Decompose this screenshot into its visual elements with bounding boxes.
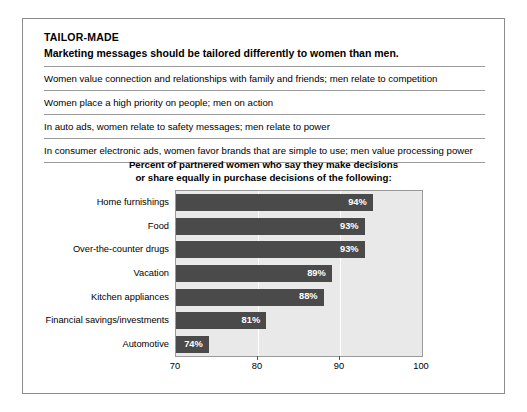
bar-row: Over-the-counter drugs93% xyxy=(176,241,422,258)
tick-label: 90 xyxy=(334,361,344,371)
tick-label: 80 xyxy=(252,361,262,371)
tick-label: 100 xyxy=(413,361,429,371)
tick-mark xyxy=(339,356,340,360)
category-label: Financial savings/investments xyxy=(46,312,170,329)
bar: 74% xyxy=(176,336,209,353)
bar-row: Automotive74% xyxy=(176,336,422,353)
bar-value-label: 89% xyxy=(307,269,326,278)
chart-body: Home furnishings94%Food93%Over-the-count… xyxy=(23,190,504,385)
category-label: Kitchen appliances xyxy=(91,289,169,306)
chart: Percent of partnered women who say they … xyxy=(23,159,504,385)
bar: 94% xyxy=(176,194,373,211)
category-label: Automotive xyxy=(122,336,169,353)
bar-value-label: 94% xyxy=(348,198,367,207)
bar: 88% xyxy=(176,289,324,306)
bar-row: Home furnishings94% xyxy=(176,194,422,211)
chart-title-line-1: Percent of partnered women who say they … xyxy=(93,159,434,172)
bar: 89% xyxy=(176,265,332,282)
exhibit-card: TAILOR-MADE Marketing messages should be… xyxy=(22,18,505,394)
category-label: Home furnishings xyxy=(97,194,169,211)
tick-label: 70 xyxy=(170,361,180,371)
tick-mark xyxy=(257,356,258,360)
bar-series: Home furnishings94%Food93%Over-the-count… xyxy=(176,191,422,356)
bar-value-label: 74% xyxy=(184,340,203,349)
chart-title: Percent of partnered women who say they … xyxy=(23,159,504,184)
bar-row: Financial savings/investments81% xyxy=(176,312,422,329)
bar: 93% xyxy=(176,241,365,258)
list-item: Women place a high priority on people; m… xyxy=(44,91,485,115)
bar-row: Kitchen appliances88% xyxy=(176,289,422,306)
x-axis-labels: 708090100 xyxy=(175,361,421,375)
exhibit-kicker: TAILOR-MADE xyxy=(44,30,485,45)
chart-title-line-2: or share equally in purchase decisions o… xyxy=(93,172,434,185)
category-label: Vacation xyxy=(134,265,170,282)
category-label: Over-the-counter drugs xyxy=(73,241,169,258)
bar-value-label: 93% xyxy=(340,222,359,231)
list-item: Women value connection and relationships… xyxy=(44,67,485,91)
plot-area: Home furnishings94%Food93%Over-the-count… xyxy=(175,190,423,357)
exhibit-header: TAILOR-MADE Marketing messages should be… xyxy=(44,30,485,163)
bar: 93% xyxy=(176,218,365,235)
bar-row: Food93% xyxy=(176,218,422,235)
bar-value-label: 93% xyxy=(340,245,359,254)
category-label: Food xyxy=(148,218,169,235)
bar-value-label: 88% xyxy=(299,292,318,301)
list-item: In auto ads, women relate to safety mess… xyxy=(44,115,485,139)
exhibit-subhead: Marketing messages should be tailored di… xyxy=(44,46,485,61)
bar-row: Vacation89% xyxy=(176,265,422,282)
bar-value-label: 81% xyxy=(242,316,261,325)
bar: 81% xyxy=(176,312,266,329)
fact-list: Women value connection and relationships… xyxy=(44,67,485,163)
